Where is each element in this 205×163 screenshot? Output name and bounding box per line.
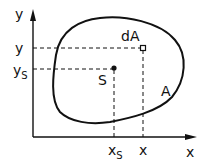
x-axis-label: x (186, 144, 194, 160)
x-element-label: x (139, 142, 147, 158)
area-a-label: A (161, 83, 171, 99)
diagram-svg: y x y yS xS x S dA A (0, 0, 205, 163)
xs-centroid-label: xS (108, 142, 123, 161)
y-element-label: y (15, 40, 23, 56)
area-region-a (53, 17, 184, 123)
centroid-point-icon (111, 65, 116, 70)
x-axis-arrow-icon (185, 134, 197, 140)
ys-subscript: S (21, 70, 27, 81)
element-da-label: dA (121, 28, 140, 44)
y-axis (30, 9, 36, 137)
ys-centroid-label: yS (13, 62, 28, 81)
y-axis-arrow-icon (30, 9, 36, 21)
centroid-s-label: S (98, 72, 107, 88)
xs-main: x (108, 142, 116, 158)
centroid-diagram: y x y yS xS x S dA A (0, 0, 205, 163)
area-element-square-icon (141, 46, 146, 51)
xs-subscript: S (116, 150, 122, 161)
y-axis-label: y (15, 6, 23, 22)
x-axis (33, 134, 197, 140)
ys-main: y (13, 62, 21, 78)
